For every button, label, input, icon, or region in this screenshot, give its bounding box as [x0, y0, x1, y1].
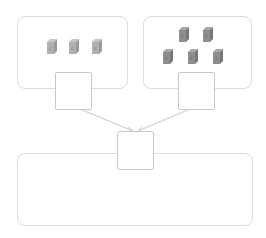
- block-letter: c: [165, 55, 168, 61]
- block-letter: c: [190, 55, 193, 61]
- block-cube-icon: c: [66, 39, 81, 55]
- block-letter: c: [94, 45, 97, 51]
- block-cube-icon: c: [89, 39, 104, 55]
- left-answer-box[interactable]: [55, 72, 92, 110]
- block-letter: c: [205, 33, 208, 39]
- block-cube-icon: c: [44, 39, 59, 55]
- right-answer-box[interactable]: [178, 72, 215, 110]
- block-cube-icon: c: [210, 49, 225, 65]
- total-answer-box[interactable]: [117, 131, 154, 170]
- block-letter: c: [49, 45, 52, 51]
- block-cube-icon: c: [200, 27, 215, 43]
- block-letter: c: [181, 33, 184, 39]
- block-cube-icon: c: [160, 49, 175, 65]
- block-cube-icon: c: [185, 49, 200, 65]
- block-cube-icon: c: [176, 27, 191, 43]
- block-letter: c: [71, 45, 74, 51]
- block-letter: c: [215, 55, 218, 61]
